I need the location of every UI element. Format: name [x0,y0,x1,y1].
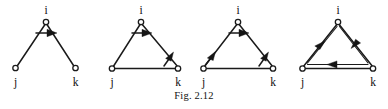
edge-i-k [141,23,178,67]
left-edge-arrow [206,52,216,66]
vertex-label-j: j [9,77,23,89]
node-i [335,19,340,24]
node-i [43,19,48,24]
vertex-label-i: i [39,5,53,17]
diagram-3: i j k [190,0,287,88]
figure-caption: Fig. 2.12 [0,90,388,101]
vertex-label-j: j [105,77,119,89]
node-i [138,19,143,24]
edge-i-j [17,23,47,67]
node-k [370,66,375,71]
node-j [109,66,114,71]
node-k [175,66,180,71]
vertex-label-i: i [331,5,345,17]
inner-left-arrow [315,41,325,50]
top-horizontal-arrow [132,29,152,36]
vertex-label-k: k [69,77,83,89]
node-k [73,65,78,70]
node-j [13,65,18,70]
figure-container: i j k i j k [0,0,388,109]
vertex-label-j: j [296,77,310,89]
edge-i-k [238,23,273,67]
edge-i-k [46,23,75,67]
vertex-label-k: k [366,77,380,89]
node-k [270,66,275,71]
inner-bottom-arrow [327,61,337,68]
node-j [201,66,206,71]
edge-i-j [113,23,141,67]
diagram-4: i j k [287,0,384,88]
vertex-label-k: k [171,77,185,89]
vertex-label-j: j [197,77,211,89]
diagram-2: i j k [95,0,192,88]
inner-directed-cycle [308,27,369,69]
vertex-label-k: k [266,77,280,89]
node-j [300,66,305,71]
vertex-label-i: i [134,5,148,17]
node-i [235,19,240,24]
vertex-label-i: i [231,5,245,17]
diagram-1: i j k [0,0,97,88]
